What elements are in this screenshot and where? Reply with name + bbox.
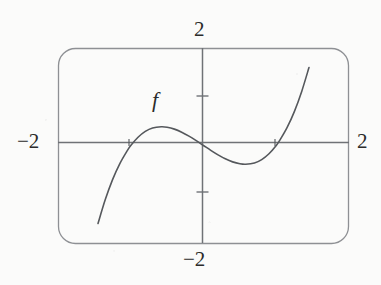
function-plot [0, 0, 381, 285]
axis-label-x-max: 2 [357, 131, 368, 152]
axis-label-y-max: 2 [194, 19, 205, 40]
function-curve [98, 68, 309, 224]
axis-label-y-min: −2 [183, 249, 205, 270]
graph-figure: 2 −2 −2 2 f [0, 0, 381, 285]
axis-label-x-min: −2 [17, 131, 39, 152]
function-name-label: f [152, 89, 158, 111]
